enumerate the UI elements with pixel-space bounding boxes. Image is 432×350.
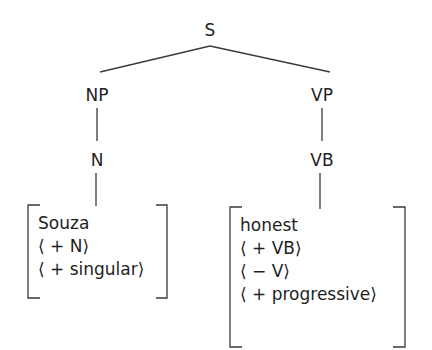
matrix-line-feature: ⟨ − V⟩ (240, 260, 377, 283)
node-n: N (91, 150, 104, 170)
node-np: NP (86, 85, 109, 105)
node-s: S (205, 20, 216, 40)
matrix-line-feature: ⟨ + singular⟩ (38, 258, 144, 281)
matrix-line-word: honest (240, 214, 377, 237)
left-feature-matrix: Souza ⟨ + N⟩ ⟨ + singular⟩ (38, 212, 144, 281)
right-feature-matrix: honest ⟨ + VB⟩ ⟨ − V⟩ ⟨ + progressive⟩ (240, 214, 377, 306)
node-vp: VP (311, 85, 333, 105)
left-matrix-close-bracket (156, 205, 167, 298)
matrix-line-feature: ⟨ + VB⟩ (240, 237, 377, 260)
node-vb: VB (310, 150, 333, 170)
matrix-line-word: Souza (38, 212, 144, 235)
right-matrix-close-bracket (393, 207, 405, 347)
edge-s-vp (210, 46, 330, 72)
matrix-line-feature: ⟨ + N⟩ (38, 235, 144, 258)
edge-s-np (100, 46, 210, 72)
matrix-line-feature: ⟨ + progressive⟩ (240, 283, 377, 306)
